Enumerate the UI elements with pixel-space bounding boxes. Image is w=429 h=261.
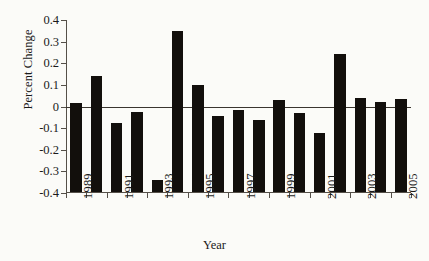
y-axis-tick-label: -0.4	[39, 187, 59, 200]
x-axis-tick-label: 1997	[244, 173, 259, 199]
bar-chart-figure: Percent Change 0.40.30.20.10-0.1-0.2-0.3…	[0, 0, 429, 261]
x-axis-tick	[391, 193, 392, 198]
x-axis-tick-label: 1989	[81, 173, 96, 199]
x-axis-tick	[228, 193, 229, 198]
bar	[395, 99, 407, 192]
bar	[111, 123, 123, 192]
y-axis-tick-label: -0.2	[39, 144, 59, 157]
y-axis-tick-label: 0.2	[43, 57, 59, 70]
x-axis-tick	[147, 193, 148, 198]
bar	[172, 31, 184, 192]
y-axis-tick-label: 0.3	[43, 35, 59, 48]
bar	[314, 133, 326, 192]
x-axis-tick	[66, 193, 67, 198]
x-axis-line	[66, 192, 411, 193]
y-axis-tick-label: 0	[53, 100, 59, 113]
x-axis-tick	[107, 193, 108, 198]
y-axis-tick-label: 0.4	[43, 14, 59, 27]
x-axis-tick	[269, 193, 270, 198]
x-axis-tick-label: 2003	[365, 173, 380, 199]
x-axis-tick	[310, 193, 311, 198]
y-axis-tick	[61, 85, 66, 86]
x-axis-tick-label: 1999	[284, 173, 299, 199]
x-axis-tick	[188, 193, 189, 198]
y-axis-tick	[61, 171, 66, 172]
y-axis-tick	[61, 42, 66, 43]
y-axis-tick	[61, 150, 66, 151]
y-axis-tick-label: -0.3	[39, 165, 59, 178]
x-axis-tick-label: 2005	[406, 173, 421, 199]
bar	[233, 110, 245, 192]
y-axis-tick	[61, 128, 66, 129]
y-axis-tick-label: -0.1	[39, 122, 59, 135]
y-axis-tick	[61, 20, 66, 21]
x-axis-tick-label: 1995	[203, 173, 218, 199]
plot-area: 0.40.30.20.10-0.1-0.2-0.3-0.4	[66, 20, 411, 193]
y-axis-title: Percent Change	[21, 0, 36, 150]
bar	[334, 54, 346, 192]
x-axis-title: Year	[0, 238, 429, 253]
x-axis-tick-label: 1991	[122, 173, 137, 199]
x-axis-tick	[350, 193, 351, 198]
y-axis-tick-label: 0.1	[43, 79, 59, 92]
y-axis-tick	[61, 107, 66, 108]
x-axis-tick-label: 2001	[325, 173, 340, 199]
x-axis-tick-label: 1993	[162, 173, 177, 199]
y-axis-tick	[61, 63, 66, 64]
bar	[192, 85, 204, 192]
